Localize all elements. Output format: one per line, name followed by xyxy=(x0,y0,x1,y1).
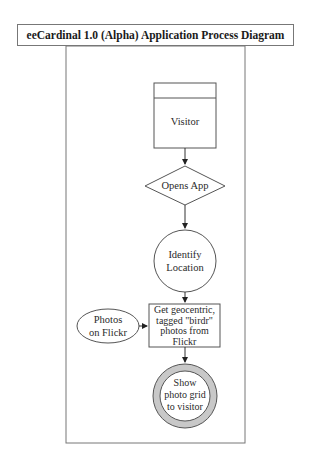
get-line-3: photos from xyxy=(149,326,220,337)
show-photo-grid-label: Show photo grid to visitor xyxy=(158,377,212,413)
get-line-4: Flickr xyxy=(149,337,220,348)
flickr-line-1: Photos xyxy=(77,314,139,327)
diagram-title: eeCardinal 1.0 (Alpha) Application Proce… xyxy=(17,24,294,46)
identify-line-1: Identify xyxy=(154,249,216,262)
identify-location-label: Identify Location xyxy=(154,249,216,274)
process-diagram-canvas xyxy=(0,0,312,462)
identify-line-2: Location xyxy=(154,262,216,275)
get-line-1: Get geocentric, xyxy=(149,305,220,316)
show-line-1: Show xyxy=(158,377,212,389)
visitor-label: Visitor xyxy=(154,116,216,129)
photos-on-flickr-label: Photos on Flickr xyxy=(77,314,139,339)
get-photos-label: Get geocentric, tagged "birdr" photos fr… xyxy=(149,305,220,347)
show-line-3: to visitor xyxy=(158,401,212,413)
flickr-line-2: on Flickr xyxy=(77,327,139,340)
opens-app-label: Opens App xyxy=(145,180,225,193)
show-line-2: photo grid xyxy=(158,389,212,401)
